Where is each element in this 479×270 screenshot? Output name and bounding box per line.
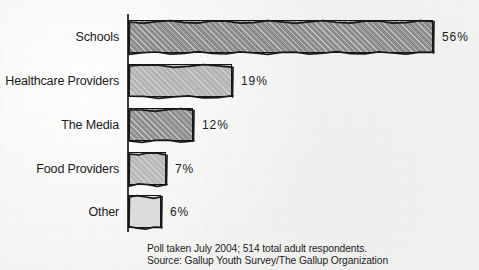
plot-area: Schools56%Healthcare Providers19%The Med… <box>0 0 479 240</box>
bar-sketch-outline <box>129 109 194 142</box>
footnote-line-1: Poll taken July 2004; 514 total adult re… <box>147 243 477 255</box>
bar-shape <box>128 152 166 185</box>
bar-sketch-outline <box>129 153 167 186</box>
category-label: Schools <box>0 30 119 44</box>
footnote-line-2: Source: Gallup Youth Survey/The Gallup O… <box>147 255 477 267</box>
bar-shape <box>128 64 232 97</box>
bar-value-label: 12% <box>202 118 229 132</box>
bar <box>128 108 193 141</box>
bar <box>128 152 166 185</box>
footnote: Poll taken July 2004; 514 total adult re… <box>147 243 477 266</box>
bar-sketch-outline <box>129 196 162 229</box>
bar-sketch-outline <box>129 21 434 54</box>
bar <box>128 195 161 228</box>
bar-value-label: 56% <box>442 30 469 44</box>
category-label: Other <box>0 205 119 219</box>
category-label: The Media <box>0 118 119 132</box>
bar-shape <box>128 108 193 141</box>
bar <box>128 64 232 97</box>
bar <box>128 20 433 53</box>
bar-row: The Media12% <box>0 103 479 147</box>
bar-value-label: 19% <box>241 74 268 88</box>
bar-row: Food Providers7% <box>0 147 479 191</box>
bar-row: Healthcare Providers19% <box>0 59 479 103</box>
bar-shape <box>128 20 433 53</box>
bar-shape <box>128 195 161 228</box>
bar-row: Other6% <box>0 190 479 234</box>
bar-value-label: 6% <box>170 205 189 219</box>
chart-page: Schools56%Healthcare Providers19%The Med… <box>0 0 479 270</box>
bar-value-label: 7% <box>175 162 194 176</box>
category-label: Food Providers <box>0 162 119 176</box>
category-label: Healthcare Providers <box>0 74 119 88</box>
bar-row: Schools56% <box>0 15 479 59</box>
bar-sketch-outline <box>129 65 233 98</box>
